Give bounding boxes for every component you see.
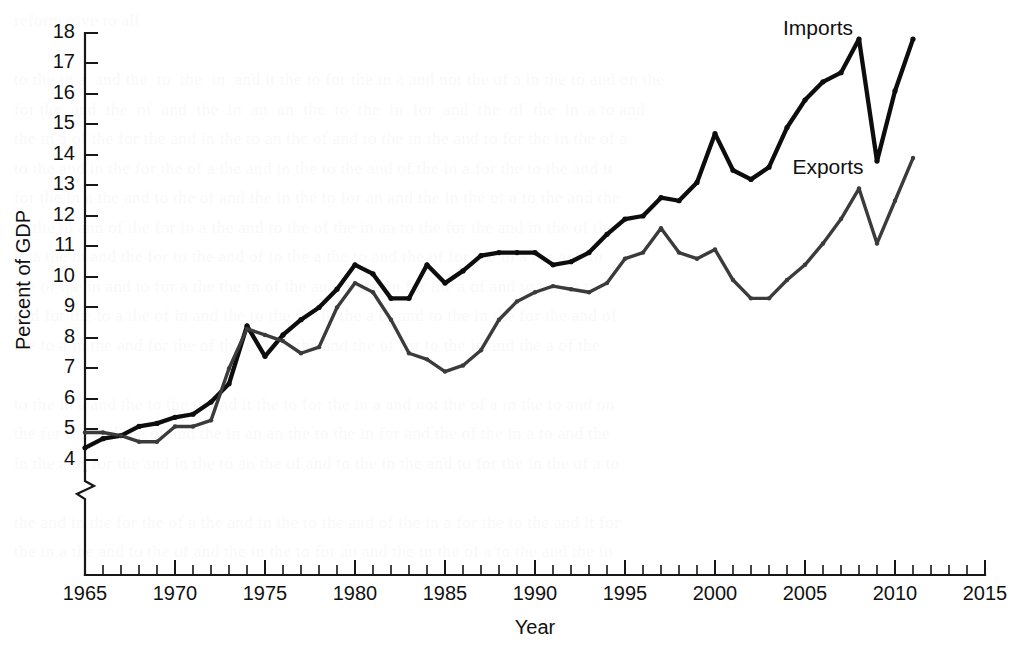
y-tick-label: 11	[54, 233, 75, 255]
y-tick-label: 8	[64, 325, 75, 347]
x-tick-label: 1970	[153, 582, 198, 604]
figure-container: reform give to all to the in a and the t…	[0, 0, 1016, 664]
y-tick-label: 12	[53, 203, 75, 225]
imports-line	[85, 39, 913, 448]
y-axis-break-icon	[77, 471, 94, 575]
y-tick-label: 17	[53, 50, 75, 72]
y-tick-label: 6	[64, 386, 75, 408]
y-tick-label: 4	[64, 447, 75, 469]
x-tick-group	[85, 560, 985, 575]
y-tick-label: 15	[53, 111, 75, 133]
x-tick-label: 2005	[783, 582, 828, 604]
series-layer	[82, 37, 915, 451]
imports-markers	[82, 37, 915, 451]
x-tick-label: 1965	[63, 582, 108, 604]
imports-series-label: Imports	[783, 16, 853, 39]
x-tick-label: 1975	[243, 582, 288, 604]
x-axis-title: Year	[515, 616, 556, 638]
axis-group	[77, 33, 985, 575]
x-tick-label: 1985	[423, 582, 468, 604]
exports-line	[85, 158, 913, 442]
y-tick-label: 9	[64, 294, 75, 316]
x-tick-label: 1980	[333, 582, 378, 604]
y-tick-label: 13	[53, 172, 75, 194]
y-tick-label: 14	[53, 142, 75, 164]
y-tick-label: 7	[64, 355, 75, 377]
y-tick-label: 16	[53, 81, 75, 103]
y-tick-group	[85, 33, 98, 460]
y-tick-label-group: 4 5 6 7 8 9 10 11 12 13 14 15 16 17 18	[53, 20, 75, 469]
y-tick-label: 18	[53, 20, 75, 42]
x-tick-label: 2010	[873, 582, 918, 604]
exports-markers	[83, 156, 915, 444]
y-axis-title: Percent of GDP	[12, 210, 34, 350]
x-tick-label: 2015	[963, 582, 1008, 604]
y-tick-label: 5	[64, 416, 75, 438]
x-tick-label: 1995	[603, 582, 648, 604]
line-chart: 4 5 6 7 8 9 10 11 12 13 14 15 16 17 18 1…	[0, 0, 1016, 664]
exports-series-label: Exports	[792, 155, 863, 178]
x-tick-label-group: 1965 1970 1975 1980 1985 1990 1995 2000 …	[63, 582, 1008, 604]
y-tick-label: 10	[53, 264, 75, 286]
x-tick-label: 2000	[693, 582, 738, 604]
x-tick-label: 1990	[513, 582, 558, 604]
